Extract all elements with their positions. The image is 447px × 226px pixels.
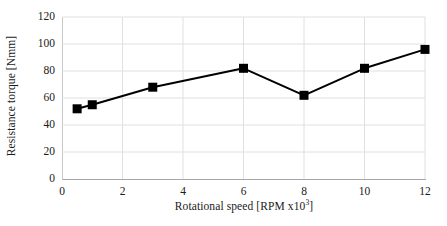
x-axis-tick-label: 6: [224, 186, 264, 198]
x-axis-tick-label: 12: [405, 186, 445, 198]
x-axis-tick-label: 8: [284, 186, 324, 198]
data-series-line: [77, 49, 425, 108]
y-axis-tick-label: 120: [15, 11, 55, 23]
y-axis-tick-label: 20: [15, 146, 55, 158]
data-point-marker: [73, 104, 82, 113]
data-point-marker: [421, 45, 430, 54]
data-point-marker: [300, 91, 309, 100]
y-axis-tick-label: 100: [15, 38, 55, 50]
data-point-marker: [239, 64, 248, 73]
y-axis-tick-label: 0: [15, 173, 55, 185]
x-axis-tick-label: 4: [163, 186, 203, 198]
chart-figure: Resistance torque [Nmm] Rotational speed…: [0, 0, 447, 226]
x-axis-tick-label: 0: [42, 186, 82, 198]
y-axis-tick-label: 80: [15, 65, 55, 77]
y-axis-tick-label: 60: [15, 92, 55, 104]
x-axis-tick-label: 2: [103, 186, 143, 198]
data-point-marker: [360, 64, 369, 73]
data-point-marker: [148, 83, 157, 92]
y-axis-tick-label: 40: [15, 119, 55, 131]
series-polyline: [77, 49, 425, 108]
x-axis-tick-label: 10: [345, 186, 385, 198]
data-point-markers: [73, 45, 430, 113]
data-point-marker: [88, 100, 97, 109]
